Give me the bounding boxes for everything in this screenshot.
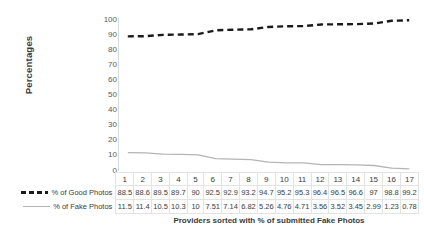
x-axis-category-9: 9	[257, 173, 275, 186]
legend-label: % of Fake Photos	[53, 202, 112, 211]
data-cell: 97	[365, 186, 383, 200]
y-axis-tick-100: 100	[104, 15, 117, 24]
x-axis-category-5: 5	[187, 173, 203, 186]
data-cell: 88.5	[116, 186, 134, 200]
y-axis-tick-80: 80	[108, 45, 117, 54]
table-corner-cell	[0, 173, 116, 186]
x-axis-category-15: 15	[365, 173, 383, 186]
table-row: % of Good Photos88.588.689.589.79092.592…	[0, 186, 419, 200]
data-cell: 92.5	[204, 186, 222, 200]
data-cell: 10.5	[152, 200, 170, 214]
data-cell: 89.7	[169, 186, 187, 200]
table-row: % of Fake Photos11.511.410.510.3107.517.…	[0, 200, 419, 214]
x-axis-category-1: 1	[116, 173, 134, 186]
data-cell: 94.7	[257, 186, 275, 200]
data-cell: 96.4	[311, 186, 329, 200]
legend-item-good-photos: % of Good Photos	[0, 186, 116, 200]
data-cell: 3.45	[347, 200, 365, 214]
legend-line-icon	[21, 191, 48, 194]
y-axis-tick-60: 60	[108, 75, 117, 84]
x-axis-category-16: 16	[383, 173, 401, 186]
x-axis-category-13: 13	[329, 173, 347, 186]
x-axis-category-17: 17	[400, 173, 418, 186]
x-axis-title: Providers sorted with % of submitted Fak…	[119, 216, 419, 225]
data-cell: 96.6	[347, 186, 365, 200]
x-axis-category-6: 6	[204, 173, 222, 186]
legend-label: % of Good Photos	[51, 188, 112, 197]
data-cell: 3.56	[311, 200, 329, 214]
data-cell: 90	[187, 186, 203, 200]
data-cell: 11.5	[116, 200, 134, 214]
series-line-good-photos	[128, 20, 409, 36]
data-cell: 7.14	[222, 200, 240, 214]
data-cell: 10.3	[169, 200, 187, 214]
y-axis-tick-70: 70	[108, 60, 117, 69]
x-axis-category-12: 12	[311, 173, 329, 186]
table-row-categories: 1234567891011121314151617	[0, 173, 419, 186]
x-axis-category-10: 10	[275, 173, 293, 186]
data-cell: 96.5	[329, 186, 347, 200]
series-line-fake-photos	[128, 153, 409, 169]
data-cell: 2.99	[365, 200, 383, 214]
x-axis-category-7: 7	[222, 173, 240, 186]
data-cell: 95.3	[293, 186, 311, 200]
y-axis-title: Percentages	[19, 20, 39, 110]
data-cell: 0.78	[400, 200, 418, 214]
data-cell: 11.4	[134, 200, 152, 214]
x-axis-category-11: 11	[293, 173, 311, 186]
data-cell: 99.2	[400, 186, 418, 200]
y-axis-tick-labels: 1009080706050403020100	[92, 12, 117, 174]
x-axis-category-4: 4	[169, 173, 187, 186]
y-axis-tick-10: 10	[108, 150, 117, 159]
y-axis-tick-20: 20	[108, 135, 117, 144]
data-cell: 6.82	[240, 200, 258, 214]
data-cell: 88.6	[134, 186, 152, 200]
y-axis-tick-90: 90	[108, 30, 117, 39]
legend-line-icon	[23, 206, 50, 207]
y-axis-tick-40: 40	[108, 105, 117, 114]
plot-area	[119, 19, 418, 170]
chart-data-table: 1234567891011121314151617% of Good Photo…	[0, 172, 419, 214]
data-cell: 1.23	[383, 200, 401, 214]
data-cell: 98.8	[383, 186, 401, 200]
data-cell: 89.5	[152, 186, 170, 200]
chart-svg	[119, 19, 418, 170]
x-axis-category-3: 3	[152, 173, 170, 186]
y-axis-tick-30: 30	[108, 120, 117, 129]
x-axis-category-2: 2	[134, 173, 152, 186]
data-cell: 5.26	[257, 200, 275, 214]
y-axis-tick-50: 50	[108, 90, 117, 99]
data-cell: 4.71	[293, 200, 311, 214]
data-cell: 3.52	[329, 200, 347, 214]
x-axis-category-14: 14	[347, 173, 365, 186]
legend-item-fake-photos: % of Fake Photos	[0, 200, 116, 214]
data-cell: 10	[187, 200, 203, 214]
data-cell: 95.2	[275, 186, 293, 200]
data-cell: 93.2	[240, 186, 258, 200]
x-axis-category-8: 8	[240, 173, 258, 186]
data-cell: 7.51	[204, 200, 222, 214]
data-cell: 4.76	[275, 200, 293, 214]
data-cell: 92.9	[222, 186, 240, 200]
